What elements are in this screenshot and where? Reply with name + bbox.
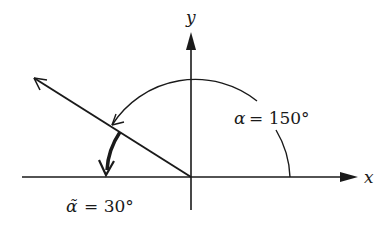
angle-diagram: y x α = 150° α̃ = 30° xyxy=(0,0,390,235)
angle-arc-150 xyxy=(112,79,290,177)
alpha-tilde-value: = 30° xyxy=(84,196,134,216)
y-axis xyxy=(186,32,196,210)
y-axis-label: y xyxy=(185,7,196,27)
reference-angle-arc xyxy=(99,132,120,175)
alpha-tilde-symbol: α̃ xyxy=(66,196,78,216)
alpha-symbol: α xyxy=(234,108,246,128)
reference-angle-label: α̃ = 30° xyxy=(66,196,134,216)
alpha-value: = 150° xyxy=(249,108,310,128)
x-axis-arrow-icon xyxy=(340,172,358,182)
angle-label: α = 150° xyxy=(234,108,310,128)
x-axis-label: x xyxy=(364,167,374,187)
y-axis-arrow-icon xyxy=(186,32,196,50)
